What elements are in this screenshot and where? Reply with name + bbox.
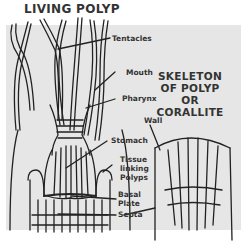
label-line: linking <box>120 164 149 173</box>
label-stomach: Stomach <box>111 136 148 145</box>
label-line: Polyps <box>120 173 149 182</box>
skeleton-title-line: OF POLYP <box>145 82 235 94</box>
label-basal-plate: Basal Plate <box>118 190 141 208</box>
label-tentacles: Tentacles <box>112 34 152 43</box>
skeleton-title-line: OR <box>145 94 235 106</box>
label-tissue-linking-polyps: Tissue linking Polyps <box>120 155 149 182</box>
label-line: Basal <box>118 190 141 199</box>
label-line: Plate <box>118 199 141 208</box>
label-wall: Wall <box>144 116 162 125</box>
label-pharynx: Pharynx <box>122 94 157 103</box>
label-septa: Septa <box>118 210 143 219</box>
label-line: Tissue <box>120 155 149 164</box>
label-mouth: Mouth <box>126 68 153 77</box>
living-polyp-title: LIVING POLYP <box>24 2 120 16</box>
skeleton-title-line: SKELETON <box>145 70 235 82</box>
skeleton-title: SKELETON OF POLYP OR CORALLITE <box>145 70 235 118</box>
